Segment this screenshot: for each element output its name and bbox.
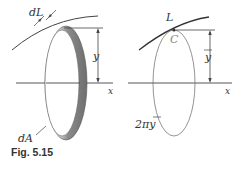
right-panel: L C y x 2πy [128, 11, 232, 136]
label-x-left: x [108, 86, 113, 96]
label-dL: dL [29, 6, 43, 19]
left-panel: y x dL dA [12, 6, 113, 145]
label-x-right: x [225, 86, 230, 96]
label-C: C [170, 33, 179, 46]
label-y: y [92, 50, 100, 63]
label-L: L [165, 11, 173, 24]
label-dA: dA [18, 132, 33, 145]
figure-caption: Fig. 5.15 [11, 146, 53, 158]
label-y-bar: y [204, 51, 212, 64]
centroid-point [172, 28, 175, 31]
label-circumference: 2πy [134, 118, 156, 131]
